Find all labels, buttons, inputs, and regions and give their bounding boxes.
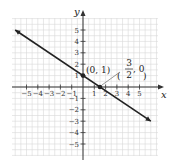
y-axis-arrow-icon	[81, 10, 86, 16]
x-tick-label: −2	[55, 90, 65, 98]
x-tick-label: −4	[33, 90, 44, 98]
fraction-numerator: 3	[126, 58, 132, 68]
open-paren: (	[117, 71, 121, 81]
fraction-denominator: 2	[126, 70, 132, 80]
coordinate-plane: −5−4−3−2−112345−5−4−3−2−112345 (0, 1)()3…	[0, 0, 172, 167]
y-tick-label: −5	[69, 141, 79, 149]
x-tick-label: 5	[137, 90, 141, 98]
x-tick-label: 4	[126, 90, 131, 98]
y-tick-label: −3	[69, 118, 79, 126]
y-tick-label: 3	[75, 49, 79, 57]
point-marker	[81, 73, 86, 78]
x-tick-label: −3	[44, 90, 54, 98]
point-marker	[98, 85, 103, 90]
y-tick-label: −4	[69, 129, 80, 137]
point-label: (0, 1)	[86, 65, 110, 75]
y-axis-label: y	[73, 6, 80, 17]
y-tick-label: 4	[75, 38, 80, 46]
y-tick-label: −2	[69, 106, 79, 114]
y-tick-label: −1	[69, 95, 79, 103]
x-tick-label: 1	[92, 90, 96, 98]
y-tick-label: 5	[75, 27, 79, 35]
axes	[12, 10, 164, 160]
highlighted-points: (0, 1)()32, 0	[81, 58, 147, 89]
x-tick-label: −5	[21, 90, 31, 98]
y-tick-label: 2	[75, 61, 79, 69]
point-label-rest: , 0	[133, 64, 145, 74]
x-axis-label: x	[161, 89, 167, 100]
